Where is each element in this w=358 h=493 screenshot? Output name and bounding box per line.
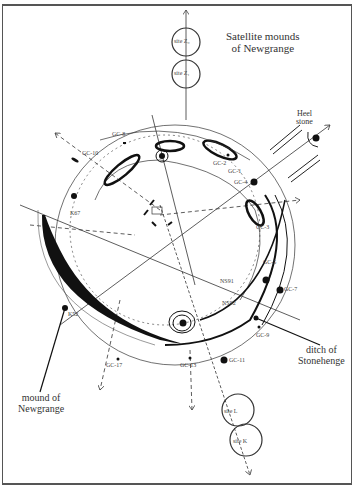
gc-11-marker: [221, 357, 228, 364]
gc-13-marker: [189, 357, 192, 360]
axis-heelstone: [60, 125, 330, 325]
gc-9-marker: [258, 326, 261, 329]
site-l-label: site L: [224, 408, 238, 414]
ns92-label: NS92: [222, 300, 236, 306]
gc-4-label: GC-4: [234, 179, 247, 185]
gc-11-label: GC-11: [229, 357, 245, 363]
gc-1-label: GC-1: [228, 168, 241, 174]
gc-4-marker: [251, 179, 258, 186]
heel-stone-label: Heel stone: [296, 110, 313, 127]
gc-7-marker: [277, 287, 284, 294]
ditch-of-stonehenge-label: ditch of Stonehenge: [298, 345, 345, 366]
site-k-label: site K: [233, 438, 247, 444]
gc-5-marker: [263, 277, 270, 284]
gc-8-label: GC-8: [112, 131, 125, 137]
gc-2-label: GC-2: [213, 160, 226, 166]
gc-13-label: GC-13: [180, 362, 196, 368]
gc-17-label: GC-17: [106, 362, 122, 368]
gc-7-label: GC-7: [284, 286, 297, 292]
k67-area-marker: [71, 193, 77, 199]
gc-17-marker: [117, 358, 120, 361]
satellite-mounds-label: Satellite mounds of Newgrange: [226, 31, 300, 54]
site-z0-label: site Z₀: [174, 38, 190, 44]
ns91-label: NS91: [220, 278, 234, 284]
gc-5-label: GC-5: [263, 259, 276, 265]
mound-of-newgrange-label: mound of Newgrange: [18, 393, 64, 414]
gc-10-label: GC-10: [82, 150, 98, 156]
k67-label: K67: [70, 210, 80, 216]
newgrange-mound-crescent: [42, 215, 181, 344]
k52-label: K52: [68, 311, 78, 317]
heel-stone: [313, 135, 320, 142]
gc-1-marker: [227, 154, 230, 157]
gc-9-label: GC-9: [256, 332, 269, 338]
site-z1-label: site Z₁: [174, 70, 190, 76]
gc-3-label: GC-3: [256, 224, 269, 230]
